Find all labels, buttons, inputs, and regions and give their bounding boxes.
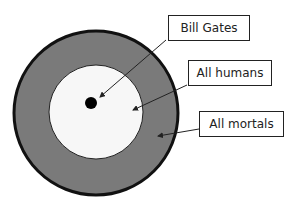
set-diagram (0, 0, 296, 207)
label-all-mortals-text: All mortals (209, 117, 273, 131)
bill-gates-dot (85, 97, 97, 109)
label-all-humans-text: All humans (197, 66, 264, 80)
all-humans-circle (49, 65, 143, 159)
label-all-humans: All humans (188, 60, 272, 86)
label-all-mortals: All mortals (199, 111, 284, 137)
label-bill-gates: Bill Gates (168, 15, 250, 41)
label-bill-gates-text: Bill Gates (180, 21, 237, 35)
